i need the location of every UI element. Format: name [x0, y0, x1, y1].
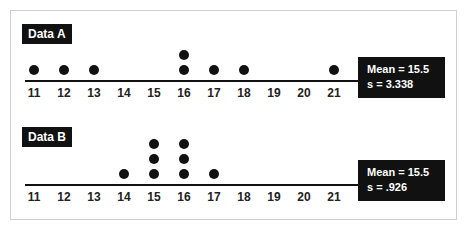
data-point-dot [179, 65, 189, 75]
x-tick-label: 13 [79, 86, 109, 100]
x-tick-label: 15 [139, 86, 169, 100]
x-tick-label: 19 [259, 86, 289, 100]
x-tick-label: 16 [169, 190, 199, 204]
data-point-dot [59, 65, 69, 75]
x-tick-label: 13 [79, 190, 109, 204]
data-point-dot [149, 169, 159, 179]
data-point-dot [179, 169, 189, 179]
data-point-dot [89, 65, 99, 75]
x-tick-label: 21 [319, 190, 349, 204]
x-tick-label: 21 [319, 86, 349, 100]
x-tick-label: 18 [229, 86, 259, 100]
data-point-dot [329, 65, 339, 75]
data-point-dot [239, 65, 249, 75]
x-tick-label: 20 [289, 86, 319, 100]
x-tick-label: 14 [109, 86, 139, 100]
x-tick-label: 20 [289, 190, 319, 204]
stats-box: Mean = 15.5 s = .926 [358, 160, 445, 201]
x-tick-label: 12 [49, 86, 79, 100]
sd-label: s = 3.338 [367, 77, 445, 92]
x-tick-label: 15 [139, 190, 169, 204]
x-axis-line [25, 184, 360, 186]
x-tick-label: 19 [259, 190, 289, 204]
x-tick-label: 11 [19, 190, 49, 204]
panel-title: Data A [22, 24, 72, 44]
x-tick-label: 16 [169, 86, 199, 100]
x-tick-label: 12 [49, 190, 79, 204]
x-tick-label: 17 [199, 86, 229, 100]
stats-box: Mean = 15.5 s = 3.338 [358, 57, 445, 98]
panel-title: Data B [22, 127, 72, 147]
panel-data-a: Data A 1112131415161718192021 Mean = 15.… [0, 0, 468, 105]
x-tick-label: 11 [19, 86, 49, 100]
data-point-dot [179, 154, 189, 164]
data-point-dot [179, 50, 189, 60]
data-point-dot [119, 169, 129, 179]
sd-label: s = .926 [367, 180, 445, 195]
data-point-dot [149, 139, 159, 149]
data-point-dot [29, 65, 39, 75]
data-point-dot [149, 154, 159, 164]
mean-label: Mean = 15.5 [367, 165, 445, 180]
panel-data-b: Data B 1112131415161718192021 Mean = 15.… [0, 104, 468, 209]
x-tick-label: 14 [109, 190, 139, 204]
data-point-dot [179, 139, 189, 149]
data-point-dot [209, 65, 219, 75]
data-point-dot [209, 169, 219, 179]
mean-label: Mean = 15.5 [367, 62, 445, 77]
x-tick-label: 17 [199, 190, 229, 204]
x-axis-line [25, 80, 360, 82]
x-tick-label: 18 [229, 190, 259, 204]
